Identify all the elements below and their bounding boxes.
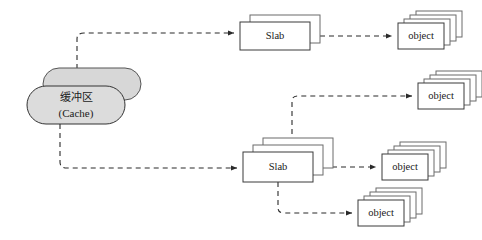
slab-node-1[interactable]: Slab [240, 15, 320, 50]
slab-2-label: Slab [269, 161, 288, 172]
connector-slab-2-to-object-4 [278, 182, 352, 213]
slab-cache-diagram: 缓冲区 (Cache) Slab Slab object [0, 0, 482, 240]
cache-node[interactable]: 缓冲区 (Cache) [27, 68, 141, 124]
object-node-2[interactable]: object [418, 71, 482, 109]
slab-node-2[interactable]: Slab [243, 138, 333, 182]
object-3-label: object [392, 161, 418, 172]
slab-1-label: Slab [266, 30, 285, 41]
object-node-1[interactable]: object [398, 11, 462, 49]
object-4-label: object [368, 207, 394, 218]
connector-cache-to-slab-2 [60, 124, 237, 168]
object-node-3[interactable]: object [382, 142, 446, 180]
object-node-4[interactable]: object [358, 188, 422, 226]
object-1-label: object [408, 30, 434, 41]
diagram-canvas: 缓冲区 (Cache) Slab Slab object [0, 0, 482, 240]
object-2-label: object [428, 90, 454, 101]
cache-label-en: (Cache) [59, 107, 94, 120]
cache-label-cn: 缓冲区 [60, 90, 93, 103]
